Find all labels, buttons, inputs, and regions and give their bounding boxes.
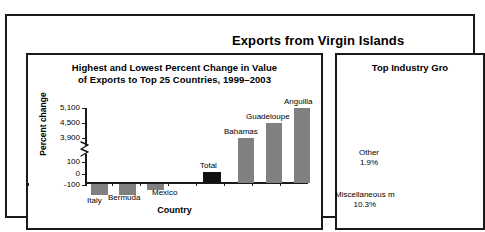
bar-chart-plot-area: Percent change 5,100 4,500 3,900 100 0 -… bbox=[28, 55, 321, 228]
pie-slice-name: Other bbox=[359, 148, 379, 158]
bar-label-mexico: Mexico bbox=[152, 188, 177, 197]
pie-chart-panel: Top Industry Gro Other 1.9% Miscellaneou… bbox=[335, 53, 485, 230]
pie-slice-name: Miscellaneous m bbox=[335, 190, 395, 200]
y-tick-label: 3,900 bbox=[46, 134, 80, 142]
bar-chart-panel: Highest and Lowest Percent Change in Val… bbox=[26, 53, 323, 230]
bar-guadeloupe bbox=[266, 123, 282, 183]
bar-label-total: Total bbox=[200, 161, 217, 170]
page-title: Exports from Virgin Islands bbox=[232, 33, 404, 48]
y-tick-minus100: -100 bbox=[46, 181, 80, 189]
y-tick-4500: 4,500 bbox=[46, 119, 80, 127]
bar-label-guadeloupe: Guadeloupe bbox=[246, 112, 290, 121]
x-axis-title: Country bbox=[28, 205, 321, 215]
x-tick-mark bbox=[196, 183, 197, 186]
pie-slice-value: 1.9% bbox=[359, 158, 379, 168]
y-tick-5100: 5,100 bbox=[46, 104, 80, 112]
pie-slice-value: 10.3% bbox=[335, 200, 395, 210]
y-tick-label: 4,500 bbox=[46, 119, 80, 127]
bar-italy bbox=[91, 184, 108, 195]
y-tick-label: 5,100 bbox=[46, 104, 80, 112]
bar-label-anguilla: Anguilla bbox=[284, 97, 312, 106]
x-tick-mark bbox=[224, 183, 225, 186]
x-tick-mark bbox=[252, 183, 253, 186]
bar-total bbox=[203, 172, 221, 183]
bar-label-bermuda: Bermuda bbox=[108, 193, 140, 202]
x-tick-mark bbox=[280, 183, 281, 186]
bar-label-italy: Italy bbox=[87, 196, 102, 205]
x-tick-mark bbox=[28, 183, 29, 186]
bar-label-bahamas: Bahamas bbox=[224, 127, 258, 136]
bar-anguilla bbox=[294, 108, 310, 183]
x-tick-mark bbox=[140, 183, 141, 186]
y-tick-3900: 3,900 bbox=[46, 134, 80, 142]
bar-bahamas bbox=[238, 138, 254, 183]
pie-slice-label-other: Other 1.9% bbox=[359, 148, 379, 168]
y-tick-label: 0 bbox=[46, 170, 80, 178]
y-tick-0: 0 bbox=[46, 170, 80, 178]
page-outer-frame: Exports from Virgin Islands Highest and … bbox=[5, 14, 475, 218]
axis-break-icon bbox=[78, 141, 92, 157]
pie-slice-label-miscellaneous: Miscellaneous m 10.3% bbox=[335, 190, 395, 210]
y-tick-label: 100 bbox=[46, 158, 80, 166]
x-tick-mark bbox=[168, 183, 169, 186]
y-tick-100: 100 bbox=[46, 158, 80, 166]
pie-chart-title: Top Industry Gro bbox=[337, 62, 483, 73]
y-tick-label: -100 bbox=[46, 181, 80, 189]
x-tick-mark bbox=[112, 183, 113, 186]
